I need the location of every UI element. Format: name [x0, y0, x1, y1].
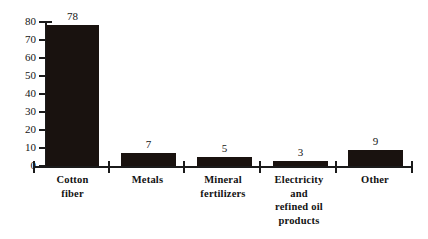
- category-label-other-line-1: Other: [335, 173, 415, 187]
- x-tick-mark-start: [33, 161, 35, 173]
- y-axis-label-60: 60: [0, 52, 36, 63]
- category-label-electricity-refined-oil: Electricity and refined oil products: [259, 173, 339, 227]
- bar-value-other: 9: [348, 135, 403, 147]
- bar-value-cotton-fiber: 78: [46, 10, 99, 22]
- category-label-mineral-fertilizers: Mineral fertilizers: [183, 173, 263, 200]
- x-axis-line: [33, 166, 413, 168]
- y-axis-label-50: 50: [0, 70, 36, 81]
- chart-page: 80 70 60 50 40 30 20 10 0 78 7 5 3 9 Cot…: [0, 0, 428, 239]
- y-axis-label-30: 30: [0, 106, 36, 117]
- bar-value-mineral-fertilizers: 5: [197, 142, 252, 154]
- y-axis-label-20-text: 20: [2, 124, 36, 135]
- bar-cotton-fiber: [46, 25, 99, 166]
- bar-other: [348, 150, 403, 166]
- y-axis-label-10-text: 10: [2, 142, 36, 153]
- category-label-cotton-fiber-line-1: Cotton: [33, 173, 112, 187]
- y-axis-label-40-text: 40: [2, 88, 36, 99]
- y-axis-label-0-text: 0: [2, 160, 36, 171]
- x-tick-mark-end: [411, 161, 413, 173]
- x-tick-mark-2: [183, 161, 185, 173]
- category-label-other: Other: [335, 173, 415, 187]
- category-label-electricity-refined-oil-line-2: and: [259, 187, 339, 201]
- y-axis-label-70-text: 70: [2, 34, 36, 45]
- y-axis-label-80: 80: [0, 16, 36, 27]
- y-axis-label-20: 20: [0, 124, 36, 135]
- category-label-mineral-fertilizers-line-1: Mineral: [183, 173, 263, 187]
- category-label-metals: Metals: [108, 173, 187, 187]
- x-tick-mark-1: [108, 161, 110, 173]
- category-label-electricity-refined-oil-line-1: Electricity: [259, 173, 339, 187]
- category-label-metals-line-1: Metals: [108, 173, 187, 187]
- category-label-electricity-refined-oil-line-4: products: [259, 214, 339, 228]
- category-label-electricity-refined-oil-line-3: refined oil: [259, 200, 339, 214]
- bar-mineral-fertilizers: [197, 157, 252, 166]
- y-axis-label-60-text: 60: [2, 52, 36, 63]
- x-tick-mark-3: [259, 161, 261, 173]
- y-axis-label-30-text: 30: [2, 106, 36, 117]
- bar-value-electricity-refined-oil: 3: [273, 146, 328, 158]
- category-label-cotton-fiber: Cotton fiber: [33, 173, 112, 200]
- category-label-mineral-fertilizers-line-2: fertilizers: [183, 187, 263, 201]
- bar-electricity-refined-oil: [273, 161, 328, 166]
- y-axis-label-80-text: 80: [2, 16, 36, 27]
- bar-chart: 80 70 60 50 40 30 20 10 0 78 7 5 3 9 Cot…: [0, 0, 428, 239]
- y-axis-label-0: 0: [0, 160, 36, 171]
- y-axis-label-50-text: 50: [2, 70, 36, 81]
- y-axis-label-10: 10: [0, 142, 36, 153]
- x-tick-mark-4: [335, 161, 337, 173]
- bar-metals: [121, 153, 176, 166]
- category-label-cotton-fiber-line-2: fiber: [33, 187, 112, 201]
- bar-value-metals: 7: [121, 138, 176, 150]
- y-axis-label-70: 70: [0, 34, 36, 45]
- y-axis-label-40: 40: [0, 88, 36, 99]
